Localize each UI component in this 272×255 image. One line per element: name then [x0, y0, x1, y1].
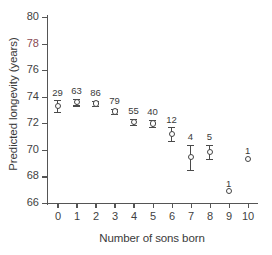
data-point-marker — [74, 99, 80, 105]
data-point-marker — [112, 108, 118, 114]
x-tick: 10 — [248, 203, 249, 208]
x-tick-label: 5 — [150, 210, 156, 222]
data-point-count-label: 40 — [147, 107, 158, 117]
chart-figure: Predicted longevity (years) 666870727476… — [0, 0, 272, 255]
y-tick: 66 — [42, 203, 47, 204]
error-bar-cap-upper — [54, 100, 60, 101]
y-axis-label: Predicted longevity (years) — [7, 9, 19, 199]
error-bar-cap-lower — [168, 141, 174, 142]
data-point-count-label: 1 — [226, 179, 231, 189]
y-tick: 70 — [42, 150, 47, 151]
x-tick: 0 — [57, 203, 58, 208]
data-point-count-label: 55 — [128, 106, 139, 116]
x-tick: 8 — [210, 203, 211, 208]
x-tick-label: 7 — [188, 210, 194, 222]
data-point-marker — [207, 149, 213, 155]
x-tick: 5 — [153, 203, 154, 208]
x-axis-label: Number of sons born — [47, 232, 257, 244]
y-tick: 80 — [42, 17, 47, 18]
y-tick-label: 76 — [27, 63, 39, 75]
error-bar-cap-upper — [206, 145, 212, 146]
y-tick-label: 72 — [27, 116, 39, 128]
data-point-marker — [55, 103, 61, 109]
data-point-marker — [150, 120, 156, 126]
y-tick: 78 — [42, 44, 47, 45]
data-point-count-label: 1 — [245, 146, 250, 156]
y-tick-label: 80 — [27, 10, 39, 22]
x-tick-label: 3 — [112, 210, 118, 222]
error-bar-cap-lower — [149, 127, 155, 128]
y-axis-label-container: Predicted longevity (years) — [0, 0, 20, 215]
x-tick: 3 — [114, 203, 115, 208]
data-point-count-label: 12 — [166, 115, 177, 125]
data-point-marker — [169, 131, 175, 137]
error-bar-cap-lower — [130, 125, 136, 126]
data-point-marker — [245, 156, 251, 162]
y-tick: 74 — [42, 97, 47, 98]
y-tick-label: 66 — [27, 196, 39, 208]
x-tick-label: 9 — [226, 210, 232, 222]
y-tick: 72 — [42, 123, 47, 124]
x-tick: 9 — [229, 203, 230, 208]
data-point-count-label: 63 — [71, 86, 82, 96]
x-tick-label: 8 — [207, 210, 213, 222]
data-point-marker — [93, 100, 99, 106]
x-tick-label: 10 — [242, 210, 254, 222]
data-point-marker — [226, 188, 232, 194]
data-point-count-label: 86 — [90, 88, 101, 98]
y-tick: 68 — [42, 176, 47, 177]
x-tick: 2 — [95, 203, 96, 208]
data-point-count-label: 79 — [109, 96, 120, 106]
y-tick: 76 — [42, 70, 47, 71]
data-point-marker — [131, 119, 137, 125]
x-tick-label: 1 — [74, 210, 80, 222]
x-tick-label: 0 — [55, 210, 61, 222]
x-tick-label: 2 — [93, 210, 99, 222]
data-point-marker — [188, 154, 194, 160]
y-tick-label: 74 — [27, 90, 39, 102]
data-point-count-label: 4 — [188, 132, 193, 142]
data-point-count-label: 29 — [52, 88, 63, 98]
x-tick: 1 — [76, 203, 77, 208]
x-tick-label: 6 — [169, 210, 175, 222]
x-tick: 7 — [191, 203, 192, 208]
error-bar-cap-lower — [73, 105, 79, 106]
error-bar-cap-upper — [168, 127, 174, 128]
error-bar-cap-lower — [54, 112, 60, 113]
x-tick: 6 — [172, 203, 173, 208]
y-tick-label: 78 — [27, 37, 39, 49]
error-bar-cap-upper — [187, 145, 193, 146]
x-tick: 4 — [133, 203, 134, 208]
y-tick-label: 70 — [27, 143, 39, 155]
plot-area: 6668707274767880 012345678910 2963867955… — [47, 17, 258, 203]
data-point-count-label: 5 — [207, 132, 212, 142]
error-bar-cap-lower — [187, 170, 193, 171]
x-tick-label: 4 — [131, 210, 137, 222]
error-bar-cap-lower — [206, 159, 212, 160]
y-tick-label: 68 — [27, 169, 39, 181]
